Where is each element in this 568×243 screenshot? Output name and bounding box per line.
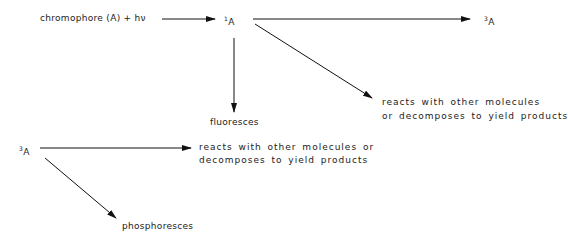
node-triplet-a-top: 3A xyxy=(484,12,495,29)
arrow-triplet-to-phosphoresces xyxy=(45,158,116,218)
node-chromophore: chromophore (A) + hν xyxy=(40,12,146,25)
triplet-top-label: A xyxy=(488,17,494,27)
node-singlet-reacts-line1: reacts with other molecules xyxy=(382,96,540,109)
node-triplet-reacts-line2: decomposes to yield products xyxy=(199,154,368,167)
arrow-singlet-to-reacts xyxy=(255,24,372,98)
triplet-left-label: A xyxy=(23,147,29,157)
node-triplet-reacts-line1: reacts with other molecules or xyxy=(199,141,374,154)
singlet-label: A xyxy=(228,17,234,27)
node-singlet-reacts-line2: or decomposes to yield products xyxy=(382,110,568,123)
node-singlet-a: 1A xyxy=(224,12,235,29)
node-phosphoresces: phosphoresces xyxy=(122,220,193,233)
node-triplet-a-left: 3A xyxy=(19,142,30,159)
node-fluoresces: fluoresces xyxy=(210,116,259,129)
